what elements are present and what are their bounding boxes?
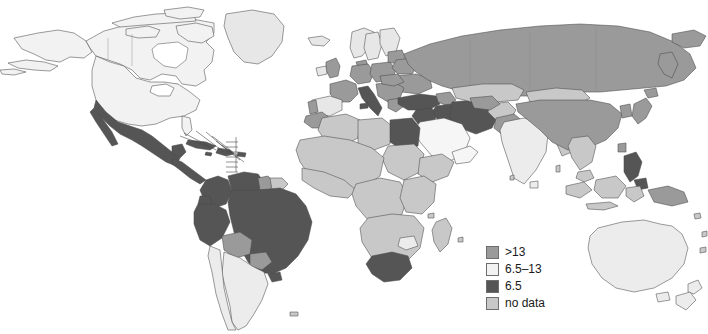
country-united-kingdom	[326, 58, 340, 78]
legend-item-mid: 6.5–13	[486, 261, 578, 278]
island-sicily-sardinia	[360, 103, 368, 109]
country-new-zealand-south-island	[676, 292, 696, 310]
island-madagascar	[432, 218, 452, 252]
world-map-svg	[0, 0, 708, 334]
island-sumatra	[566, 182, 592, 198]
country-alaska	[14, 30, 92, 62]
island-puerto-rico	[237, 152, 246, 157]
country-sudan	[382, 144, 424, 180]
country-turkey	[398, 94, 440, 110]
country-malaysia	[576, 170, 594, 182]
country-papua-new-guinea	[648, 186, 688, 206]
island-andaman	[556, 165, 560, 172]
legend-label-nodata: no data	[505, 297, 545, 310]
region-east-africa	[400, 176, 436, 214]
country-uruguay	[268, 272, 282, 282]
caribbean-leader-lines	[180, 131, 244, 172]
legend-swatch-low	[486, 280, 499, 293]
island-borneo	[594, 176, 626, 198]
legend-swatch-nodata	[486, 297, 499, 310]
island-tasmania	[656, 292, 670, 302]
map-legend: >13 6.5–13 6.5 no data	[486, 244, 578, 312]
country-alaska-aleutians-tail	[0, 69, 26, 75]
legend-swatch-mid	[486, 263, 499, 276]
legend-item-nodata: no data	[486, 295, 578, 312]
island-fiji	[700, 247, 706, 253]
region-pacific-islands	[694, 213, 701, 219]
legend-label-high: >13	[505, 246, 525, 259]
island-java	[586, 202, 618, 210]
country-japan	[632, 98, 652, 124]
island-maldives	[510, 175, 514, 180]
legend-item-high: >13	[486, 244, 578, 261]
island-falklands	[290, 312, 298, 316]
island-jamaica	[205, 152, 212, 156]
country-ireland	[316, 66, 327, 76]
legend-item-low: 6.5	[486, 278, 578, 295]
island-mauritius	[458, 237, 463, 242]
island-comoros	[428, 213, 434, 218]
legend-swatch-high	[486, 246, 499, 259]
country-portugal	[308, 100, 318, 114]
region-florida	[182, 116, 192, 136]
choropleth-world-map-figure: >13 6.5–13 6.5 no data	[0, 0, 708, 334]
country-greenland	[224, 10, 284, 64]
country-sweden	[364, 32, 382, 60]
region-central-america	[172, 158, 206, 184]
legend-label-low: 6.5	[505, 280, 522, 293]
island-sri-lanka	[530, 181, 538, 188]
region-pacific-islands-east	[702, 231, 707, 237]
island-cuba	[186, 140, 216, 150]
island-hokkaido	[644, 88, 658, 98]
country-south-africa	[366, 252, 412, 282]
country-iceland	[308, 36, 330, 46]
country-korea	[620, 104, 632, 118]
country-philippines	[624, 152, 642, 182]
region-indochina	[568, 136, 596, 170]
legend-label-mid: 6.5–13	[505, 263, 542, 276]
country-australia	[588, 220, 688, 292]
country-taiwan	[618, 143, 626, 152]
country-russia	[404, 24, 696, 96]
